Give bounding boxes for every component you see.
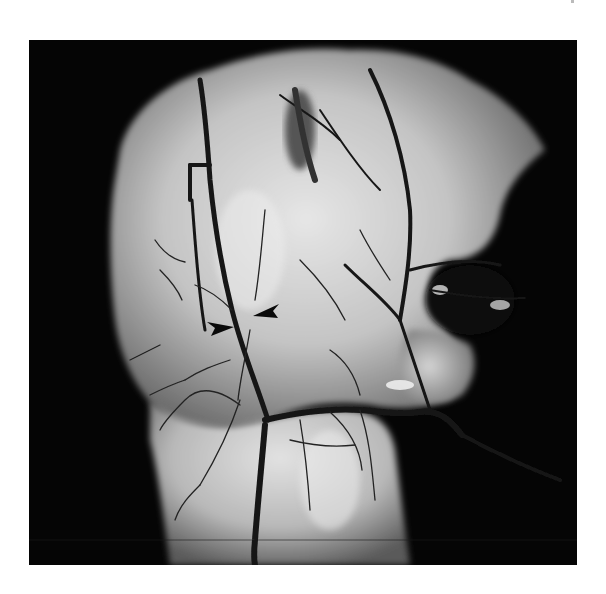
- shadow-pocket: [425, 265, 515, 335]
- scan-artifact: [571, 0, 574, 3]
- specimen-photo: [29, 40, 577, 565]
